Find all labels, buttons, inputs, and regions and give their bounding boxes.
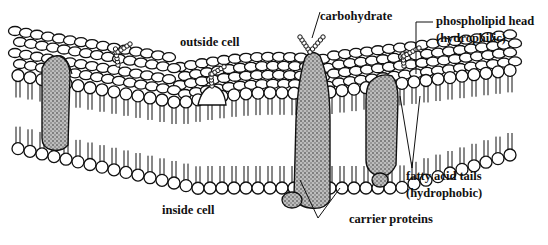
label-inside-cell: inside cell [162, 203, 214, 217]
carrier-protein-left [42, 56, 72, 151]
label-carbohydrate: carbohydrate [320, 9, 392, 23]
label-outside-cell: outside cell [180, 35, 239, 49]
label-hydrophobic: (hydrophobic) [406, 186, 482, 200]
carrier-protein-right [366, 75, 398, 187]
label-carrier-proteins: carrier proteins [349, 212, 433, 226]
label-hydrophilic: (hydrophilic) [436, 31, 506, 45]
label-fatty-acid-tails: fatty acid tails [406, 169, 482, 183]
label-phospholipid-head: phospholipid head [436, 14, 534, 28]
